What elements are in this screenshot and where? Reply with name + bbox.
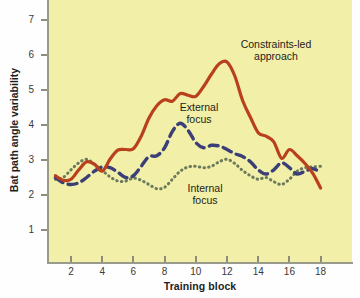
y-tick-5 bbox=[41, 89, 47, 91]
x-tick-label-16: 16 bbox=[278, 266, 300, 277]
x-tick-label-2: 2 bbox=[60, 266, 82, 277]
external-focus-label: External focus bbox=[168, 101, 230, 125]
x-tick-12 bbox=[226, 256, 228, 262]
constraints-led-label-line2: approach bbox=[254, 50, 298, 62]
x-tick-label-8: 8 bbox=[154, 266, 176, 277]
y-tick-4 bbox=[41, 124, 47, 126]
x-axis-line bbox=[47, 262, 353, 264]
x-tick-18 bbox=[320, 256, 322, 262]
x-tick-6 bbox=[132, 256, 134, 262]
x-tick-label-14: 14 bbox=[247, 266, 269, 277]
y-tick-7 bbox=[41, 19, 47, 21]
constraints-led-label: Constraints-led approach bbox=[224, 38, 328, 62]
x-tick-label-4: 4 bbox=[91, 266, 113, 277]
x-tick-2 bbox=[70, 256, 72, 262]
external-focus-label-line2: focus bbox=[186, 113, 211, 125]
internal-focus-label-line1: Internal bbox=[187, 182, 222, 194]
constraints-led-label-line1: Constraints-led bbox=[241, 38, 312, 50]
x-tick-16 bbox=[288, 256, 290, 262]
y-tick-label-7: 7 bbox=[14, 14, 34, 25]
y-tick-1 bbox=[41, 229, 47, 231]
x-tick-label-18: 18 bbox=[310, 266, 332, 277]
y-tick-6 bbox=[41, 54, 47, 56]
internal-focus-label-line2: focus bbox=[192, 194, 217, 206]
x-tick-label-6: 6 bbox=[122, 266, 144, 277]
internal-focus-label: Internal focus bbox=[176, 182, 234, 206]
external-focus-label-line1: External bbox=[180, 101, 219, 113]
y-axis-title: Bat path angle variability bbox=[8, 30, 20, 230]
y-tick-3 bbox=[41, 159, 47, 161]
x-tick-10 bbox=[195, 256, 197, 262]
x-tick-label-10: 10 bbox=[185, 266, 207, 277]
chart-figure: 7654321 24681012141618 Training block Ba… bbox=[0, 0, 360, 298]
y-tick-2 bbox=[41, 194, 47, 196]
x-tick-label-12: 12 bbox=[216, 266, 238, 277]
x-axis-title: Training block bbox=[48, 280, 352, 292]
x-tick-4 bbox=[101, 256, 103, 262]
x-tick-8 bbox=[164, 256, 166, 262]
x-tick-14 bbox=[257, 256, 259, 262]
external-focus-series-line bbox=[55, 123, 320, 184]
